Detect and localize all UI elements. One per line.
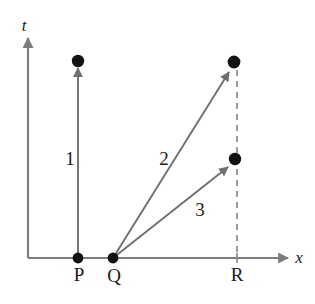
event-dot-P [73,253,84,264]
event-label-R: R [231,264,244,285]
axes-group: t x [22,16,304,267]
worldline-2-arrow [113,72,229,258]
event-label-Q: Q [107,265,121,286]
worldline-3-arrow [113,167,228,258]
event-label-P: P [74,264,85,285]
endpoint-dot-1 [72,55,84,67]
worldline-1-group: 1 [65,68,78,258]
spacetime-diagram-figure: t x 1 2 3 [0,0,315,304]
worldline-1-label: 1 [65,148,75,169]
diagram-canvas: t x 1 2 3 [0,0,315,304]
worldline-3-label: 3 [195,199,205,220]
worldline-3-group: 3 [113,167,228,258]
endpoint-dot-3 [229,153,241,165]
t-axis-label: t [22,16,28,35]
x-axis-label: x [294,248,303,267]
event-dot-Q [108,253,119,264]
worldline-2-group: 2 [113,72,229,258]
endpoint-dots-group [72,55,241,165]
event-labels-group: P Q R [74,264,244,286]
worldline-2-label: 2 [159,148,169,169]
endpoint-dot-2 [228,56,241,69]
